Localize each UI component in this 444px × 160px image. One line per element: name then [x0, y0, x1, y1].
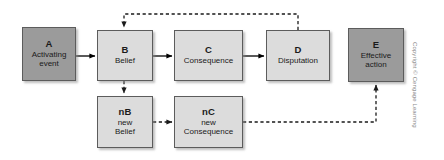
- edge-d-to-b-feedback: [124, 14, 298, 30]
- edge-nc-to-e: [243, 85, 376, 122]
- node-nc-code: nC: [202, 107, 215, 118]
- node-c-consequence[interactable]: C Consequence: [174, 30, 243, 81]
- node-d-code: D: [294, 45, 301, 56]
- node-b-belief[interactable]: B Belief: [97, 30, 153, 81]
- node-d-label: Disputation: [278, 57, 318, 66]
- node-a-label: Activating event: [32, 51, 67, 69]
- node-nc-label: new Consequence: [184, 119, 233, 137]
- node-e-effective-action[interactable]: E Effective action: [348, 28, 404, 82]
- node-d-disputation[interactable]: D Disputation: [266, 30, 330, 81]
- node-c-label: Consequence: [184, 57, 233, 66]
- node-nb-code: nB: [118, 107, 131, 118]
- node-nb-label: new Belief: [115, 119, 135, 137]
- node-c-code: C: [205, 45, 212, 56]
- node-b-label: Belief: [115, 57, 135, 66]
- node-e-code: E: [373, 40, 380, 51]
- node-nc-new-consequence[interactable]: nC new Consequence: [174, 96, 243, 148]
- abcde-model-diagram: A Activating event B Belief C Consequenc…: [0, 0, 444, 160]
- node-a-code: A: [45, 39, 52, 50]
- node-e-label: Effective action: [361, 52, 392, 70]
- node-b-code: B: [121, 45, 128, 56]
- copyright-notice: Copyright © Cengage Learning: [412, 42, 418, 128]
- node-a-activating-event[interactable]: A Activating event: [22, 27, 76, 81]
- node-nb-new-belief[interactable]: nB new Belief: [97, 96, 153, 148]
